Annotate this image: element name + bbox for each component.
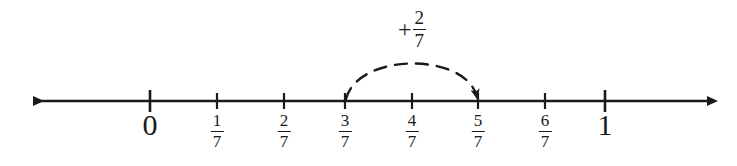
- fraction-numerator: 5: [472, 112, 485, 132]
- fraction-2-7-jump: 27: [413, 8, 427, 51]
- fraction-denominator: 7: [539, 132, 552, 151]
- tick-label-4-7: 4 7: [406, 112, 419, 150]
- fraction-6-7: 6 7: [539, 112, 552, 150]
- fraction-denominator: 7: [413, 30, 427, 51]
- tick-label-3-7: 3 7: [339, 112, 352, 150]
- tick-label-2-7: 2 7: [278, 112, 291, 150]
- fraction-2-7: 2 7: [278, 112, 291, 150]
- fraction-denominator: 7: [211, 132, 224, 151]
- tick-label-0: 0: [143, 110, 158, 140]
- fraction-numerator: 3: [339, 112, 352, 132]
- jump-operation-label: +27: [398, 8, 426, 51]
- number-line-graphic: [0, 0, 737, 166]
- tick-label-1: 1: [598, 110, 613, 140]
- fraction-numerator: 6: [539, 112, 552, 132]
- fraction-4-7: 4 7: [406, 112, 419, 150]
- fraction-3-7: 3 7: [339, 112, 352, 150]
- fraction-numerator: 2: [278, 112, 291, 132]
- fraction-1-7: 1 7: [211, 112, 224, 150]
- number-line-figure: 0 1 7 2 7 3 7 4 7 5 7 6 7: [0, 0, 737, 166]
- fraction-denominator: 7: [472, 132, 485, 151]
- tick-label-5-7: 5 7: [472, 112, 485, 150]
- fraction-denominator: 7: [278, 132, 291, 151]
- tick-label-6-7: 6 7: [539, 112, 552, 150]
- tick-label-1-7: 1 7: [211, 112, 224, 150]
- fraction-numerator: 1: [211, 112, 224, 132]
- fraction-denominator: 7: [406, 132, 419, 151]
- fraction-numerator: 2: [413, 8, 427, 30]
- fraction-numerator: 4: [406, 112, 419, 132]
- fraction-denominator: 7: [339, 132, 352, 151]
- plus-sign: +: [398, 16, 413, 42]
- fraction-5-7: 5 7: [472, 112, 485, 150]
